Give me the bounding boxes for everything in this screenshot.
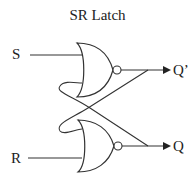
s-input-label: S: [12, 46, 20, 62]
q-arrow-icon: [163, 142, 171, 150]
circuit-drawing: [0, 0, 195, 178]
top-nor-gate: [77, 43, 113, 97]
qprime-arrow-icon: [163, 66, 171, 74]
sr-latch-diagram: SR Latch S R Q’ Q: [0, 0, 195, 178]
qprime-output-label: Q’: [173, 62, 189, 78]
r-input-label: R: [11, 150, 21, 166]
q-output-label: Q: [173, 138, 184, 154]
bottom-nor-inversion-bubble: [114, 142, 122, 150]
bottom-nor-gate: [78, 120, 114, 172]
top-nor-inversion-bubble: [113, 66, 121, 74]
